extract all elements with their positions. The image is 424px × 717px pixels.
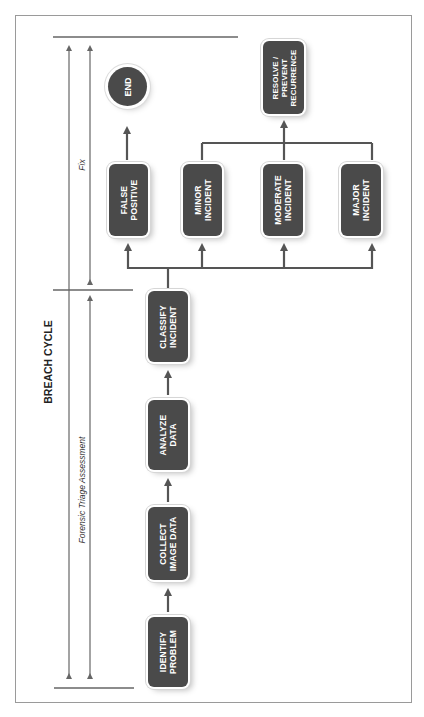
outcome-end: END — [108, 67, 147, 106]
class-moderate-incident: MODERATEINCIDENT — [263, 164, 303, 236]
false-positive-label: FALSEPOSITIVE — [119, 180, 139, 221]
step-analyze-data: ANALYZEDATA — [148, 400, 188, 470]
diagram-connectors — [0, 0, 424, 717]
step-identify-problem: IDENTIFYPROBLEM — [148, 617, 188, 687]
minor-incident-label: MINORINCIDENT — [193, 179, 213, 221]
end-label: END — [123, 77, 133, 96]
step-classify-incident: CLASSIFYINCIDENT — [148, 291, 188, 362]
class-minor-incident: MINORINCIDENT — [183, 164, 222, 236]
step-collect-label: COLLECTIMAGE DATA — [158, 516, 178, 571]
class-major-incident: MAJORINCIDENT — [341, 164, 381, 236]
breach-cycle-title: BREACH CYCLE — [42, 320, 54, 403]
moderate-incident-label: MODERATEINCIDENT — [273, 175, 293, 225]
outcome-resolve-prevent-recurrence: RESOLVE /PREVENTRECURRENCE — [263, 41, 304, 114]
step-classify-label: CLASSIFYINCIDENT — [158, 305, 178, 349]
step-analyze-label: ANALYZEDATA — [158, 415, 178, 456]
step-collect-image-data: COLLECTIMAGE DATA — [148, 507, 188, 580]
class-false-positive: FALSEPOSITIVE — [109, 164, 148, 236]
resolve-label: RESOLVE /PREVENTRECURRENCE — [270, 49, 297, 106]
step-identify-label: IDENTIFYPROBLEM — [158, 630, 178, 674]
triage-phase-label: Forensic Triage Assessment — [77, 437, 87, 544]
major-incident-label: MAJORINCIDENT — [351, 179, 371, 221]
fix-phase-label: Fix — [77, 159, 87, 170]
